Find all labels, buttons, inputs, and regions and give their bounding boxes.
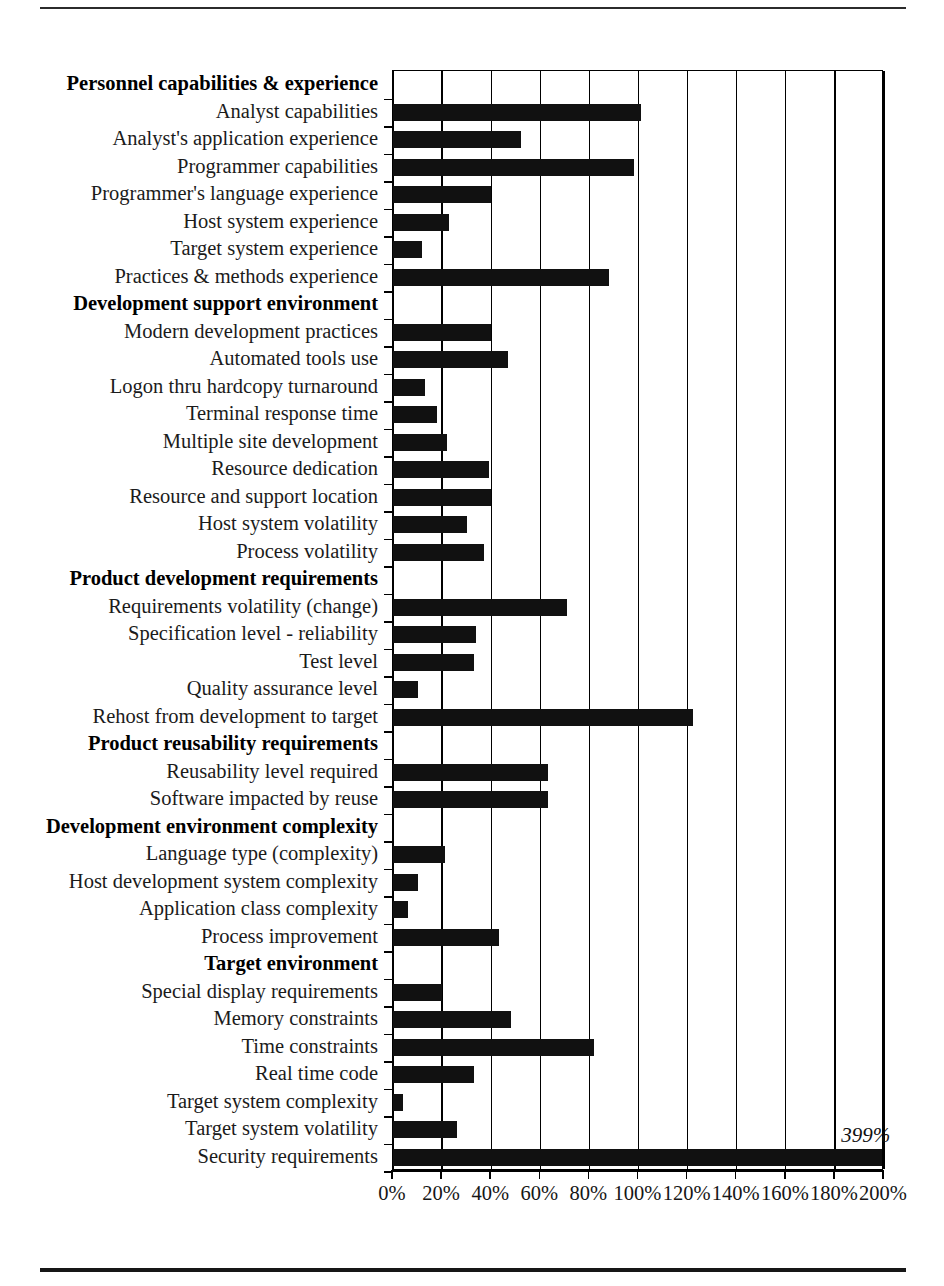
- x-axis-label: 200%: [859, 1182, 907, 1204]
- bar: [393, 186, 491, 203]
- bar-row: [393, 869, 882, 897]
- bar-row: [393, 374, 882, 402]
- x-axis-label: 100%: [614, 1182, 662, 1204]
- bar: [393, 681, 418, 698]
- category-label: Security requirements: [198, 1146, 378, 1167]
- x-axis-tick-labels: 0%20%40%60%80%100%120%140%160%180%200%: [0, 1182, 944, 1212]
- x-axis-tick: [882, 1170, 884, 1179]
- bar: [393, 984, 442, 1001]
- category-group-header: Development environment complexity: [46, 816, 378, 837]
- category-label: Programmer's language experience: [91, 183, 378, 204]
- category-label: Multiple site development: [163, 431, 378, 452]
- bar-row: [393, 759, 882, 787]
- x-axis-label: 60%: [521, 1182, 559, 1204]
- category-label: Real time code: [255, 1063, 378, 1084]
- x-axis-label: 160%: [761, 1182, 809, 1204]
- bar: [393, 461, 489, 478]
- bar: [393, 241, 422, 258]
- bar-row: [393, 99, 882, 127]
- bar: [393, 104, 641, 121]
- category-label: Automated tools use: [209, 348, 378, 369]
- bar: [393, 1149, 882, 1166]
- bar-row: [393, 676, 882, 704]
- category-label-column: Personnel capabilities & experienceAnaly…: [0, 70, 386, 1170]
- bar: [393, 434, 447, 451]
- x-axis-label: 140%: [712, 1182, 760, 1204]
- category-label: Quality assurance level: [187, 678, 378, 699]
- x-axis-tick: [539, 1170, 541, 1179]
- bar: [393, 1121, 457, 1138]
- category-label: Time constraints: [242, 1036, 378, 1057]
- bar-row: [393, 236, 882, 264]
- x-axis-tick: [637, 1170, 639, 1179]
- category-label: Application class complexity: [139, 898, 378, 919]
- x-axis-label: 80%: [570, 1182, 608, 1204]
- category-label: Software impacted by reuse: [150, 788, 378, 809]
- x-axis-tick: [588, 1170, 590, 1179]
- bar: [393, 901, 408, 918]
- bar: [393, 379, 425, 396]
- category-label: Language type (complexity): [146, 843, 378, 864]
- category-label: Resource dedication: [211, 458, 378, 479]
- category-group-header: Personnel capabilities & experience: [67, 73, 378, 94]
- bar: [393, 516, 467, 533]
- category-label: Process improvement: [201, 926, 378, 947]
- bar: [393, 324, 491, 341]
- category-label: Resource and support location: [129, 486, 378, 507]
- category-label: Special display requirements: [141, 981, 378, 1002]
- bar: [393, 599, 567, 616]
- bar-row: [393, 704, 882, 732]
- category-label: Rehost from development to target: [93, 706, 378, 727]
- x-axis-tick: [784, 1170, 786, 1179]
- x-axis-label: 120%: [663, 1182, 711, 1204]
- bar: [393, 654, 474, 671]
- x-axis-tick: [686, 1170, 688, 1179]
- bar: [393, 846, 445, 863]
- bar: [393, 791, 548, 808]
- bar-row: [393, 786, 882, 814]
- bar-row: [393, 924, 882, 952]
- bar: [393, 874, 418, 891]
- bar-row: [393, 484, 882, 512]
- bar-row: [393, 429, 882, 457]
- category-label: Practices & methods experience: [114, 266, 378, 287]
- category-label: Terminal response time: [186, 403, 378, 424]
- bar-row: [393, 181, 882, 209]
- bar-row: [393, 979, 882, 1007]
- category-label: Host development system complexity: [69, 871, 378, 892]
- bar: [393, 159, 634, 176]
- x-axis-tick: [391, 1170, 393, 1179]
- bar-row: [393, 1034, 882, 1062]
- bar: [393, 351, 508, 368]
- bar-row: [393, 456, 882, 484]
- bar-row: [393, 1144, 882, 1172]
- category-label: Target system complexity: [167, 1091, 378, 1112]
- category-label: Target system volatility: [185, 1118, 378, 1139]
- bar-row: [393, 1089, 882, 1117]
- page-rule-bottom: [40, 1268, 906, 1272]
- gridline-200: [883, 71, 884, 1169]
- bar: [393, 929, 499, 946]
- category-label: Logon thru hardcopy turnaround: [110, 376, 378, 397]
- category-label: Host system volatility: [198, 513, 378, 534]
- x-axis-tick: [489, 1170, 491, 1179]
- bar-row: [393, 1116, 882, 1144]
- bar-row: [393, 126, 882, 154]
- bar: [393, 214, 449, 231]
- category-label: Modern development practices: [124, 321, 378, 342]
- category-label: Memory constraints: [213, 1008, 378, 1029]
- bar: [393, 544, 484, 561]
- bar-row: [393, 539, 882, 567]
- bar-value-annotation: 399%: [841, 1125, 890, 1146]
- bar-row: [393, 154, 882, 182]
- bar: [393, 489, 491, 506]
- x-axis-label: 20%: [422, 1182, 460, 1204]
- bar-row: [393, 896, 882, 924]
- bar-row: [393, 511, 882, 539]
- category-group-header: Product reusability requirements: [88, 733, 378, 754]
- category-label: Reusability level required: [166, 761, 378, 782]
- bar: [393, 406, 437, 423]
- bar: [393, 1011, 511, 1028]
- bar-row: [393, 841, 882, 869]
- bar-row: [393, 346, 882, 374]
